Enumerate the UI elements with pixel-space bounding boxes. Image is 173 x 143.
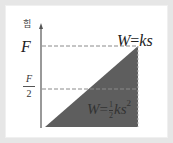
y-axis-arrow-icon	[39, 23, 43, 29]
area-eq-rhs: ks	[114, 101, 127, 117]
area-eq-sign: =	[100, 101, 108, 117]
frac-bar	[23, 86, 35, 87]
area-equation-label: W=12ks2	[87, 101, 131, 120]
frac-numerator: F	[22, 74, 36, 84]
eq-sign: =	[130, 32, 139, 49]
eq-lhs: W	[117, 32, 130, 49]
area-frac-num: 1	[109, 101, 113, 109]
y-axis-label: 힘	[23, 20, 31, 29]
frac-denominator: 2	[22, 89, 36, 99]
line-equation-label: W=ks	[117, 33, 153, 49]
tick-label-f: F	[21, 39, 31, 55]
area-eq-exponent: 2	[126, 98, 131, 108]
tick-label-half-f: F 2	[22, 74, 36, 99]
eq-rhs: ks	[139, 32, 152, 49]
area-frac-den: 2	[109, 112, 113, 120]
area-eq-lhs: W	[87, 101, 100, 117]
area-eq-fraction: 12	[109, 101, 113, 120]
